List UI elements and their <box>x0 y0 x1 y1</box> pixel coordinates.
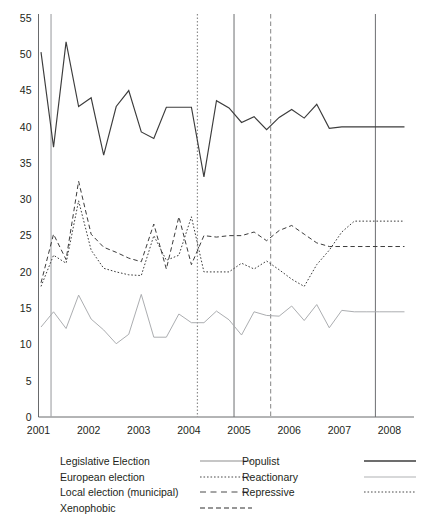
series-line <box>41 294 404 343</box>
y-tick-label: 45 <box>20 84 32 96</box>
data-series-lines <box>41 42 404 344</box>
legend-item: European election <box>60 468 260 484</box>
y-axis-tick-labels: 0510152025303540455055 <box>20 12 32 423</box>
y-tick-label: 5 <box>26 375 32 387</box>
event-marker-lines <box>51 14 375 417</box>
y-tick-label: 20 <box>20 266 32 278</box>
legend-item: Reactionary <box>242 468 412 484</box>
series-line <box>41 201 404 287</box>
y-tick-label: 55 <box>20 12 32 24</box>
chart-figure: 0510152025303540455055 20012002200320042… <box>0 0 424 526</box>
legend-column-left: Legislative ElectionEuropean electionLoc… <box>60 452 260 514</box>
x-tick-label: 2001 <box>27 424 51 436</box>
legend-item: Populist <box>242 452 412 468</box>
line-chart-plot: 0510152025303540455055 20012002200320042… <box>0 0 424 526</box>
x-tick-label: 2007 <box>328 424 352 436</box>
chart-legend: Legislative ElectionEuropean electionLoc… <box>34 452 410 518</box>
y-tick-label: 35 <box>20 157 32 169</box>
legend-column-right: PopulistReactionaryRepressive <box>242 452 412 499</box>
y-tick-label: 50 <box>20 48 32 60</box>
axis-lines <box>39 14 415 417</box>
x-tick-label: 2002 <box>77 424 101 436</box>
legend-item: Repressive <box>242 483 412 499</box>
x-tick-label: 2008 <box>378 424 402 436</box>
x-tick-label: 2005 <box>227 424 251 436</box>
y-tick-label: 15 <box>20 302 32 314</box>
y-tick-label: 10 <box>20 338 32 350</box>
x-axis-tick-labels: 20012002200320042005200620072008 <box>27 424 401 436</box>
y-tick-label: 30 <box>20 193 32 205</box>
x-tick-label: 2003 <box>127 424 151 436</box>
legend-item-label: Repressive <box>242 485 295 501</box>
y-tick-label: 25 <box>20 229 32 241</box>
legend-item: Local election (municipal) <box>60 483 260 499</box>
y-tick-label: 40 <box>20 121 32 133</box>
legend-item: Xenophobic <box>60 499 260 515</box>
legend-item-label: Xenophobic <box>60 501 115 517</box>
series-line <box>41 181 404 283</box>
legend-item: Legislative Election <box>60 452 260 468</box>
series-line <box>41 42 404 177</box>
x-tick-label: 2006 <box>277 424 301 436</box>
y-tick-label: 0 <box>26 411 32 423</box>
x-tick-label: 2004 <box>177 424 201 436</box>
